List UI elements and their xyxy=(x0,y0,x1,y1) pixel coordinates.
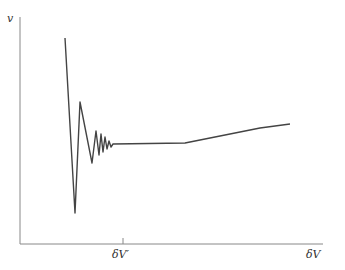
x-axis-label: δV xyxy=(306,248,321,261)
x-tick-label: δV′ xyxy=(112,248,129,261)
y-axis-label: v xyxy=(7,12,13,25)
plot xyxy=(0,0,345,270)
oscillating-curve xyxy=(65,38,290,213)
